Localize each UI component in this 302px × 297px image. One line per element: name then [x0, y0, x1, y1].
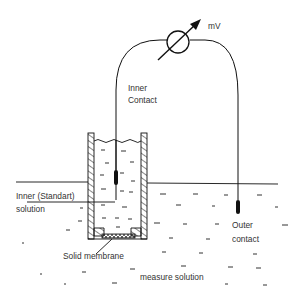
outer-contact-label-line2: contact [232, 233, 259, 245]
measure-solution-label: measure solution [140, 271, 204, 283]
inner-solution-label-line1: Inner (Standart) [16, 190, 75, 202]
liquid-dashes [22, 150, 288, 285]
diagram-graphics [0, 0, 302, 297]
outer-contact-label-line1: Outer [232, 219, 253, 231]
meter-unit-label: mV [208, 20, 221, 32]
inner-solution-surface [94, 140, 141, 143]
wire-circuit [116, 40, 238, 200]
inner-contact-label-line1: Inner [128, 82, 147, 94]
inner-contact-label-line2: Contact [128, 94, 157, 106]
inner-solution-label-line2: solution [16, 203, 45, 215]
outer-contact-electrode [236, 200, 240, 214]
inner-contact-electrode [114, 140, 118, 185]
electrode-diagram: mV Inner Contact Inner (Standart) soluti… [0, 0, 302, 297]
membrane-label: Solid membrane [63, 250, 124, 262]
electrode-body [88, 133, 147, 239]
